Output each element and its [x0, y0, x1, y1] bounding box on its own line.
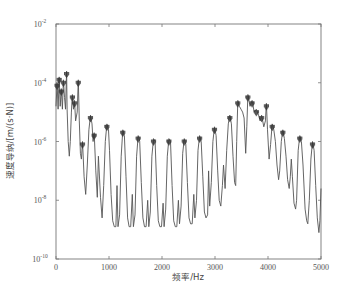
x-tick-label: 3000: [207, 263, 223, 272]
x-tick-label: 5000: [313, 263, 329, 272]
x-tick-label: 4000: [260, 263, 276, 272]
y-tick-label: 10-10: [32, 253, 48, 264]
peak-noise-bands: [55, 72, 315, 149]
x-tick-label: 0: [54, 263, 58, 272]
admittance-curve: [56, 71, 321, 233]
y-tick-label: 10-6: [34, 136, 47, 147]
x-axis-label: 频率/Hz: [172, 272, 204, 282]
y-tick-label: 10-4: [34, 77, 47, 88]
chart: 010002000300040005000 10-1010-810-610-41…: [0, 0, 343, 306]
y-tick-label: 10-2: [34, 18, 47, 29]
data-curve: [55, 71, 321, 233]
x-tick-label: 1000: [101, 263, 117, 272]
x-tick-label: 2000: [154, 263, 170, 272]
y-tick-label: 10-8: [34, 194, 47, 205]
y-axis-label: 速度导纳/[m/(s·N)]: [5, 103, 15, 180]
